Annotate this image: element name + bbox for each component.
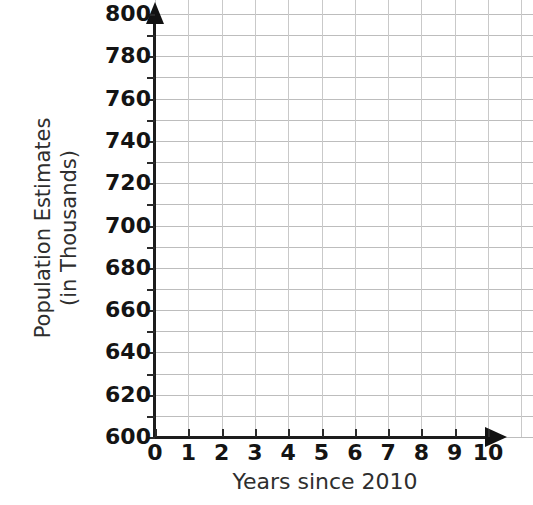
gridline-horizontal bbox=[155, 162, 533, 163]
x-axis-tick bbox=[388, 429, 390, 437]
gridline-horizontal bbox=[155, 289, 533, 290]
x-axis-tick-label: 2 bbox=[214, 440, 229, 466]
gridline-vertical bbox=[322, 0, 323, 437]
y-axis-tick-labels: 600620640660680700720740760780800 bbox=[108, 0, 154, 455]
x-axis-tick bbox=[322, 429, 324, 437]
x-axis-tick-label: 4 bbox=[281, 440, 296, 466]
x-axis-title: Years since 2010 bbox=[155, 468, 495, 496]
y-axis-tick-label: 640 bbox=[105, 341, 151, 363]
gridline-vertical bbox=[222, 0, 223, 437]
x-axis-tick-label: 9 bbox=[447, 440, 462, 466]
x-axis-tick bbox=[488, 429, 490, 437]
gridline-horizontal bbox=[155, 374, 533, 375]
gridline-horizontal bbox=[155, 204, 533, 205]
gridline-vertical bbox=[488, 0, 489, 437]
y-axis-title-line-2: (in Thousands) bbox=[56, 117, 82, 338]
gridline-horizontal bbox=[155, 395, 533, 396]
x-axis-tick bbox=[421, 429, 423, 437]
gridline-horizontal bbox=[155, 183, 533, 184]
y-axis-tick-label: 740 bbox=[105, 130, 151, 152]
population-estimates-chart: Population Estimates (in Thousands) 6006… bbox=[0, 0, 533, 505]
gridline-vertical bbox=[421, 0, 422, 437]
gridline-vertical bbox=[288, 0, 289, 437]
gridline-vertical bbox=[388, 0, 389, 437]
gridline-vertical bbox=[455, 0, 456, 437]
x-axis-tick bbox=[188, 429, 190, 437]
gridline-horizontal bbox=[155, 120, 533, 121]
x-axis-tick-label: 6 bbox=[347, 440, 362, 466]
gridline-horizontal bbox=[155, 331, 533, 332]
x-axis-tick bbox=[255, 429, 257, 437]
gridline-horizontal bbox=[155, 35, 533, 36]
x-axis-tick-label: 0 bbox=[147, 440, 162, 466]
x-axis-tick-label: 8 bbox=[414, 440, 429, 466]
gridline-horizontal bbox=[155, 416, 533, 417]
gridline-vertical bbox=[521, 0, 522, 437]
gridline-vertical bbox=[255, 0, 256, 437]
x-axis-tick-label: 10 bbox=[473, 440, 504, 466]
y-axis-tick-label: 780 bbox=[105, 45, 151, 67]
y-axis-tick-label: 660 bbox=[105, 299, 151, 321]
gridline-horizontal bbox=[155, 352, 533, 353]
y-axis-tick-label: 720 bbox=[105, 172, 151, 194]
y-axis-tick-label: 680 bbox=[105, 257, 151, 279]
gridline-horizontal bbox=[155, 226, 533, 227]
y-axis-tick-label: 760 bbox=[105, 88, 151, 110]
x-axis-tick bbox=[155, 429, 157, 437]
gridline-horizontal bbox=[155, 310, 533, 311]
y-axis-title-line-1: Population Estimates bbox=[30, 117, 56, 338]
gridline-horizontal bbox=[155, 141, 533, 142]
y-axis-tick-label: 620 bbox=[105, 384, 151, 406]
gridline-horizontal bbox=[155, 77, 533, 78]
x-axis-tick-label: 1 bbox=[181, 440, 196, 466]
y-axis-title: Population Estimates (in Thousands) bbox=[0, 0, 112, 455]
gridline-horizontal bbox=[155, 247, 533, 248]
gridline-horizontal bbox=[155, 14, 533, 15]
x-axis-tick bbox=[288, 429, 290, 437]
plot-area bbox=[155, 0, 533, 437]
gridline-horizontal bbox=[155, 268, 533, 269]
x-axis-tick bbox=[222, 429, 224, 437]
x-axis-tick bbox=[355, 429, 357, 437]
y-axis-tick-label: 800 bbox=[105, 3, 151, 25]
x-axis-tick-label: 5 bbox=[314, 440, 329, 466]
gridline-horizontal bbox=[155, 99, 533, 100]
x-axis-tick-label: 3 bbox=[247, 440, 262, 466]
gridline-vertical bbox=[355, 0, 356, 437]
y-axis-tick-label: 700 bbox=[105, 215, 151, 237]
x-axis-tick bbox=[455, 429, 457, 437]
x-axis-tick-label: 7 bbox=[380, 440, 395, 466]
gridline-horizontal bbox=[155, 56, 533, 57]
gridline-vertical bbox=[188, 0, 189, 437]
